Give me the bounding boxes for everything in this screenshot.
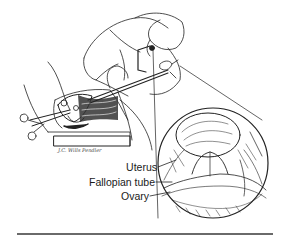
laparoscope — [88, 46, 178, 104]
illustrator-signature: J.C. Wills Pendler — [58, 147, 102, 153]
label-uterus: Uterus — [126, 161, 157, 173]
surgeon — [84, 13, 184, 96]
inset-magnified-view — [158, 108, 268, 218]
label-ovary: Ovary — [121, 190, 149, 202]
horizontal-rule — [17, 233, 273, 235]
label-fallopian-tube: Fallopian tube — [89, 176, 155, 188]
